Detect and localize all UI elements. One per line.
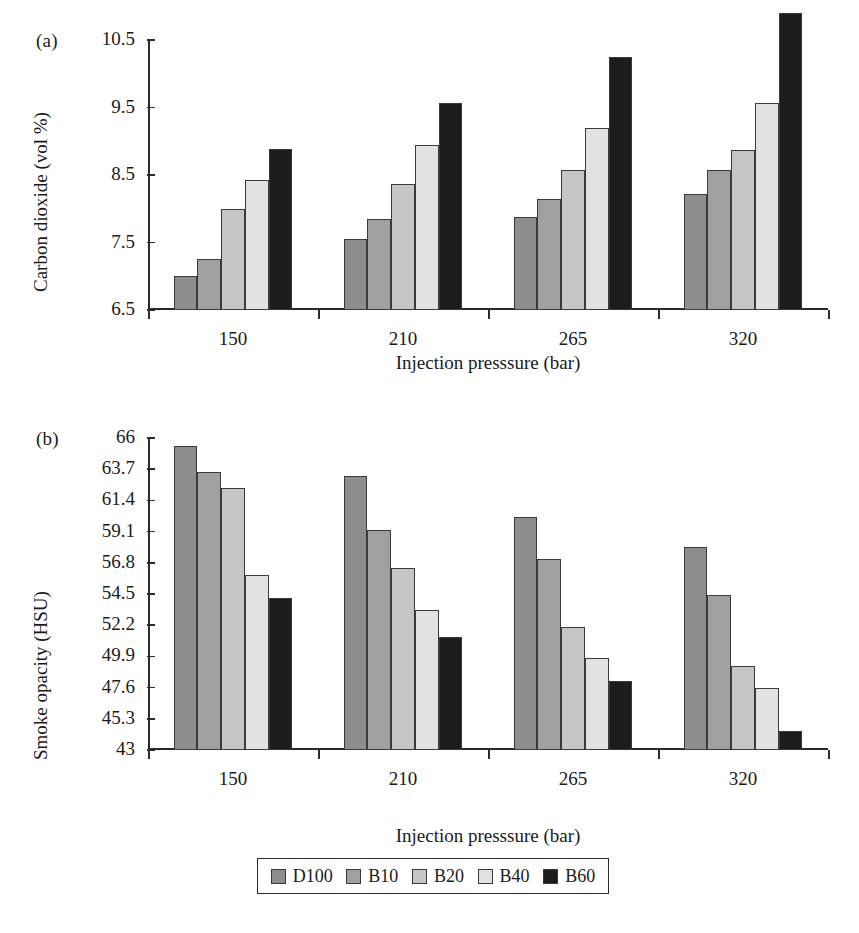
panel-b-y-tick-label: 52.2 bbox=[102, 613, 135, 635]
bar-B10-150 bbox=[197, 472, 221, 750]
bar-B40-150 bbox=[245, 575, 269, 750]
bar-B20-265 bbox=[561, 627, 585, 750]
bar-B20-265 bbox=[561, 170, 585, 310]
bar-D100-150 bbox=[174, 446, 198, 750]
bar-B20-210 bbox=[391, 568, 415, 750]
bar-B60-265 bbox=[609, 57, 633, 310]
bar-B20-320 bbox=[731, 666, 755, 750]
panel-b-y-tick-label: 47.6 bbox=[102, 676, 135, 698]
panel-a-y-tick-label: 10.5 bbox=[102, 28, 135, 50]
panel-b-y-tick-mark bbox=[147, 624, 155, 626]
panel-b-y-tick-mark bbox=[147, 468, 155, 470]
panel-b-y-tick-label: 54.5 bbox=[102, 582, 135, 604]
legend-label: B20 bbox=[434, 867, 464, 885]
panel-b-y-tick-label: 63.7 bbox=[102, 457, 135, 479]
bar-B20-210 bbox=[391, 184, 415, 310]
bar-B40-320 bbox=[755, 688, 779, 750]
legend-swatch-B40 bbox=[478, 869, 493, 884]
panel-a-y-tick-label: 9.5 bbox=[111, 96, 135, 118]
legend-swatch-D100 bbox=[271, 869, 286, 884]
panel-b-y-tick-mark bbox=[147, 687, 155, 689]
panel-b-letter: (b) bbox=[36, 428, 59, 450]
panel-b-y-axis-title: Smoke opacity (HSU) bbox=[30, 591, 52, 760]
panel-a-y-axis-title: Carbon dioxide (vol %) bbox=[30, 112, 52, 292]
panel-a-y-tick-mark bbox=[147, 107, 155, 109]
bar-B20-150 bbox=[221, 209, 245, 310]
panel-a-y-tick-mark bbox=[147, 174, 155, 176]
panel-a-x-tick-label: 265 bbox=[559, 328, 588, 350]
bar-B10-265 bbox=[537, 559, 561, 750]
panel-b-x-tick bbox=[488, 750, 490, 759]
legend-swatch-B20 bbox=[412, 869, 427, 884]
panel-a-y-tick-mark bbox=[147, 242, 155, 244]
chart-legend: D100B10B20B40B60 bbox=[257, 858, 609, 894]
bar-B10-320 bbox=[707, 595, 731, 750]
panel-b-y-tick-mark bbox=[147, 593, 155, 595]
bar-B60-265 bbox=[609, 681, 633, 750]
panel-a-plot-area: 6.57.58.59.510.5150210265320 bbox=[148, 40, 828, 310]
bar-B60-210 bbox=[439, 103, 463, 310]
bar-D100-265 bbox=[514, 517, 538, 750]
bar-B10-150 bbox=[197, 259, 221, 310]
panel-b-y-tick-label: 43 bbox=[116, 738, 135, 760]
panel-a-y-tick-label: 8.5 bbox=[111, 163, 135, 185]
legend-label: D100 bbox=[293, 867, 333, 885]
chart-panel-a: (a) Carbon dioxide (vol %) 6.57.58.59.51… bbox=[0, 0, 859, 390]
panel-a-x-tick bbox=[488, 310, 490, 319]
legend-item-B20: B20 bbox=[412, 867, 464, 885]
panel-a-x-axis-title: Injection presssure (bar) bbox=[148, 352, 828, 374]
bar-D100-320 bbox=[684, 194, 708, 310]
bar-B60-150 bbox=[269, 598, 293, 750]
panel-a-x-tick bbox=[318, 310, 320, 319]
panel-a-y-tick-label: 6.5 bbox=[111, 298, 135, 320]
bar-B20-320 bbox=[731, 150, 755, 310]
panel-b-y-tick-mark bbox=[147, 437, 155, 439]
bar-B10-320 bbox=[707, 170, 731, 310]
bar-B60-210 bbox=[439, 637, 463, 750]
legend-label: B10 bbox=[368, 867, 398, 885]
panel-a-x-tick bbox=[658, 310, 660, 319]
panel-a-y-tick-label: 7.5 bbox=[111, 231, 135, 253]
bar-B10-210 bbox=[367, 219, 391, 310]
legend-swatch-B10 bbox=[346, 869, 361, 884]
panel-b-y-tick-label: 66 bbox=[116, 426, 135, 448]
bar-B10-210 bbox=[367, 530, 391, 750]
bar-B20-150 bbox=[221, 488, 245, 750]
bar-B40-150 bbox=[245, 180, 269, 310]
panel-b-y-tick-label: 61.4 bbox=[102, 488, 135, 510]
panel-b-y-tick-mark bbox=[147, 531, 155, 533]
panel-b-plot-area: 4345.347.649.952.254.556.859.161.463.766… bbox=[148, 438, 828, 750]
bar-B10-265 bbox=[537, 199, 561, 310]
panel-b-x-tick bbox=[828, 750, 830, 759]
panel-b-x-tick bbox=[658, 750, 660, 759]
bar-B60-320 bbox=[779, 731, 803, 750]
legend-swatch-B60 bbox=[543, 869, 558, 884]
panel-b-y-tick-mark bbox=[147, 718, 155, 720]
legend-item-B40: B40 bbox=[478, 867, 530, 885]
legend-label: B60 bbox=[565, 867, 595, 885]
panel-a-x-tick-label: 150 bbox=[219, 328, 248, 350]
bar-B40-265 bbox=[585, 128, 609, 310]
panel-b-x-axis-title: Injection presssure (bar) bbox=[148, 825, 828, 847]
panel-b-x-tick-label: 210 bbox=[389, 768, 418, 790]
bar-D100-265 bbox=[514, 217, 538, 310]
panel-b-y-tick-mark bbox=[147, 500, 155, 502]
bar-B40-320 bbox=[755, 103, 779, 310]
bar-B40-210 bbox=[415, 610, 439, 750]
panel-a-x-tick-label: 320 bbox=[729, 328, 758, 350]
panel-a-y-tick-mark bbox=[147, 39, 155, 41]
legend-item-B10: B10 bbox=[346, 867, 398, 885]
bar-B60-320 bbox=[779, 13, 803, 310]
legend-item-B60: B60 bbox=[543, 867, 595, 885]
panel-b-x-tick-label: 150 bbox=[219, 768, 248, 790]
panel-b-x-tick bbox=[318, 750, 320, 759]
panel-a-x-tick-label: 210 bbox=[389, 328, 418, 350]
panel-b-y-tick-label: 56.8 bbox=[102, 551, 135, 573]
bar-D100-150 bbox=[174, 276, 198, 310]
panel-b-x-tick-label: 320 bbox=[729, 768, 758, 790]
panel-b-y-tick-label: 45.3 bbox=[102, 707, 135, 729]
bar-B60-150 bbox=[269, 149, 293, 310]
panel-a-x-tick-origin bbox=[148, 310, 150, 319]
bar-D100-210 bbox=[344, 476, 368, 750]
bar-D100-210 bbox=[344, 239, 368, 310]
